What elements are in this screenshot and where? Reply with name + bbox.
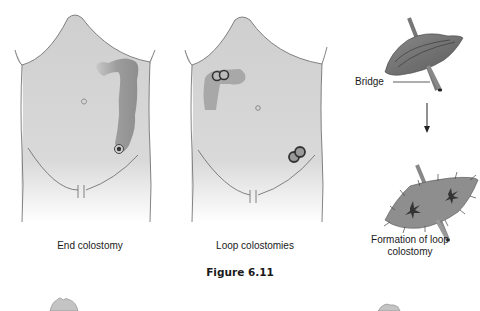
torso-loop-colostomies: [185, 17, 327, 222]
caption-end-colostomy: End colostomy: [30, 240, 150, 252]
bridge-illustration: [385, 18, 463, 133]
partial-organ-shape: [378, 304, 400, 311]
formation-illustration: [384, 165, 478, 242]
caption-formation-line1: Formation of loop: [350, 234, 470, 246]
bridge-label: Bridge: [355, 76, 395, 88]
loop-stoma-icon: [213, 71, 229, 81]
diagram-canvas: [0, 0, 480, 311]
figure-title: Figure 6.11: [0, 266, 480, 278]
caption-loop-colostomies: Loop colostomies: [195, 240, 315, 252]
torso-end-colostomy: [15, 15, 155, 222]
caption-formation-line2: colostomy: [350, 246, 470, 258]
partial-organ-shape: [50, 298, 78, 311]
